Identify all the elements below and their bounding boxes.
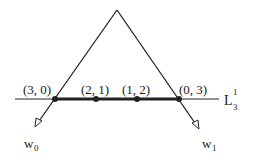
line-label-sup: 1	[233, 87, 238, 97]
left-edge	[37, 10, 117, 124]
point-3-0	[52, 96, 58, 102]
line-label-sub: 3	[233, 102, 238, 112]
point-label: (3, 0)	[23, 82, 51, 97]
right-edge	[117, 10, 197, 126]
diagram-canvas: (3, 0) (2, 1) (1, 2) (0, 3) L 1 3 w 0 w …	[0, 0, 253, 163]
vector-label-w0-sub: 0	[34, 143, 39, 153]
point-label: (0, 3)	[179, 82, 207, 97]
point-label: (2, 1)	[81, 82, 109, 97]
vector-label-w1: w	[202, 136, 212, 151]
line-label: L	[224, 93, 233, 108]
vector-label-w0: w	[24, 136, 34, 151]
point-label: (1, 2)	[122, 82, 150, 97]
vector-label-w1-sub: 1	[212, 143, 217, 153]
